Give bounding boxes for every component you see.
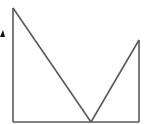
arrow-marker-icon xyxy=(0,30,5,37)
diagram-canvas xyxy=(0,0,146,124)
diagonal-up-line xyxy=(91,40,139,122)
diagonal-down-line xyxy=(13,8,91,122)
